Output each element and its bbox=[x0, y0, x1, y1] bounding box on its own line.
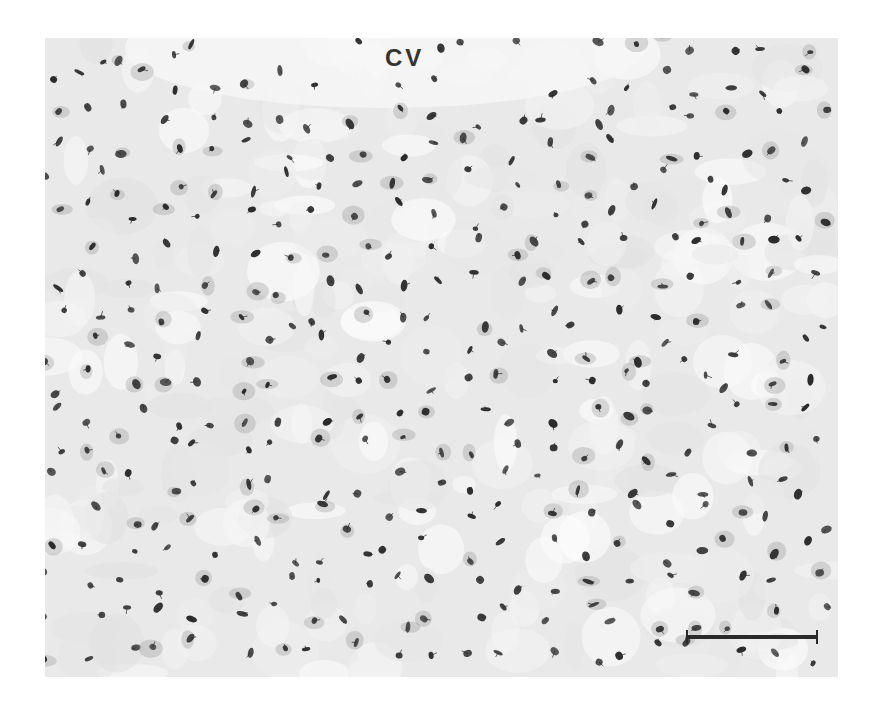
central-vein-label: CV bbox=[385, 44, 424, 72]
micrograph-tissue-section bbox=[45, 38, 838, 677]
scale-bar bbox=[686, 635, 818, 639]
tissue-cells bbox=[45, 38, 838, 677]
